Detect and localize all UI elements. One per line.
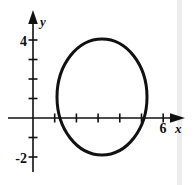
- y-tick-label-4: 4: [20, 34, 27, 49]
- x-tick-label-6: 6: [160, 121, 167, 136]
- y-axis-label: y: [38, 14, 46, 29]
- y-tick-label-neg-2: -2: [15, 151, 27, 166]
- y-axis-arrow-icon: [28, 10, 38, 24]
- oval-curve: [57, 39, 147, 155]
- x-axis-label: x: [174, 121, 182, 136]
- coordinate-plot: 4 -2 6 y x: [0, 0, 196, 185]
- page-edge-band: [177, 0, 182, 185]
- figure-canvas: 4 -2 6 y x: [0, 0, 196, 185]
